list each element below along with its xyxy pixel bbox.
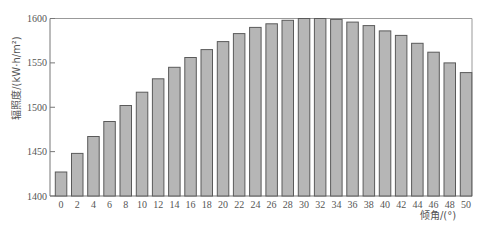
x-tick-label: 0	[59, 199, 64, 210]
x-tick-label: 6	[107, 199, 112, 210]
bar-32	[314, 19, 326, 197]
x-tick-label: 46	[429, 199, 439, 210]
bar-26	[266, 24, 278, 196]
x-tick-label: 26	[267, 199, 277, 210]
bar-28	[282, 20, 294, 196]
x-tick-label: 30	[299, 199, 309, 210]
x-axis-label: 倾角/(°)	[420, 209, 456, 221]
bar-6	[104, 122, 116, 197]
bar-16	[185, 58, 197, 197]
bar-38	[363, 26, 375, 196]
x-tick-label: 4	[91, 199, 96, 210]
bar-42	[395, 35, 407, 196]
bar-22	[233, 34, 245, 196]
y-tick-label: 1400	[27, 191, 47, 202]
bar-30	[298, 19, 310, 197]
y-tick-label: 1550	[27, 57, 47, 68]
x-tick-label: 38	[364, 199, 374, 210]
bar-44	[412, 43, 424, 196]
x-tick-label: 32	[315, 199, 325, 210]
bar-20	[217, 42, 229, 196]
bar-0	[55, 172, 67, 196]
x-tick-label: 34	[331, 199, 341, 210]
bar-34	[331, 19, 343, 196]
x-tick-label: 8	[123, 199, 128, 210]
bar-4	[88, 137, 100, 197]
x-tick-label: 16	[186, 199, 196, 210]
y-tick-label: 1450	[27, 146, 47, 157]
bar-chart: 1400145015001550160002468101214161820222…	[0, 0, 486, 230]
bar-8	[120, 106, 132, 197]
x-tick-label: 44	[412, 199, 422, 210]
y-axis-label: 辐照度/(kW·h/m²)	[10, 36, 22, 120]
x-tick-label: 24	[250, 199, 260, 210]
bar-48	[444, 63, 456, 196]
x-tick-label: 10	[137, 199, 147, 210]
bar-14	[169, 67, 181, 196]
bar-36	[347, 22, 359, 196]
x-tick-label: 14	[169, 199, 179, 210]
bar-40	[379, 31, 391, 196]
x-tick-label: 36	[348, 199, 358, 210]
bar-24	[250, 27, 262, 196]
y-tick-label: 1500	[27, 102, 47, 113]
bar-46	[428, 52, 440, 196]
x-tick-label: 48	[445, 199, 455, 210]
x-tick-label: 40	[380, 199, 390, 210]
bar-10	[136, 92, 148, 196]
x-tick-label: 2	[75, 199, 80, 210]
x-tick-label: 18	[202, 199, 212, 210]
bar-50	[460, 73, 472, 196]
x-tick-label: 50	[461, 199, 471, 210]
x-tick-label: 20	[218, 199, 228, 210]
bar-2	[72, 153, 84, 196]
bar-12	[152, 79, 164, 196]
x-tick-label: 28	[283, 199, 293, 210]
x-tick-label: 12	[153, 199, 163, 210]
x-tick-label: 22	[234, 199, 244, 210]
x-tick-label: 42	[396, 199, 406, 210]
plot-area: 1400145015001550160002468101214161820222…	[27, 13, 472, 210]
y-tick-label: 1600	[27, 13, 47, 24]
bar-18	[201, 50, 213, 196]
